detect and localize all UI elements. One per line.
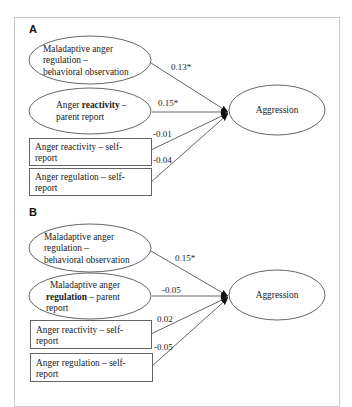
outcome-label: Aggression: [256, 290, 299, 300]
predictor-node: Maladaptive anger regulation – behaviora…: [29, 36, 151, 84]
node-label-line: report: [35, 153, 58, 163]
predictor-node: Maladaptive anger regulation – parent re…: [29, 273, 151, 319]
node-label-line: Anger reactivity – self-: [35, 142, 122, 152]
node-label-line: report: [46, 303, 69, 313]
node-label-line: behavioral observation: [44, 255, 130, 265]
path-coefficient: -0.01: [153, 129, 172, 139]
node-label-line: Anger reactivity – self-: [36, 325, 123, 335]
path-coefficient: 0.15*: [158, 98, 179, 108]
panel-a: A 0.13* 0.15* -0.01 -0.04 Maladaptive an…: [29, 23, 325, 196]
node-label-line: Maladaptive anger: [43, 44, 114, 54]
predictor-node: Maladaptive anger regulation – behaviora…: [29, 224, 151, 272]
predictor-node: Anger reactivity – parent report: [29, 88, 151, 134]
node-label-line: regulation –: [44, 243, 89, 253]
emphasis-word: reactivity: [82, 100, 120, 110]
node-label-line: report: [35, 183, 58, 193]
path-arrow: [152, 298, 228, 366]
path-coefficient: 0.02: [157, 314, 173, 324]
path-coefficient: -0.05: [154, 342, 173, 352]
predictor-node: Anger regulation – self- report: [31, 354, 153, 382]
node-label-line: Maladaptive anger: [44, 232, 115, 242]
node-label-line: report: [36, 336, 59, 346]
node-label-line: regulation –: [43, 55, 88, 65]
node-label-line: Maladaptive anger: [50, 280, 121, 290]
outcome-label: Aggression: [256, 105, 299, 115]
outcome-node: Aggression: [229, 85, 325, 135]
emphasis-word: regulation: [46, 292, 88, 302]
predictor-node: Anger regulation – self- report: [30, 169, 152, 196]
node-label-line: Anger regulation – self-: [35, 172, 125, 182]
node-label-line: Anger reactivity –: [56, 100, 127, 110]
outcome-node: Aggression: [229, 270, 325, 320]
path-coefficient: -0.04: [153, 155, 172, 165]
node-label-line: parent report: [56, 112, 105, 122]
panel-label: B: [29, 206, 37, 218]
predictor-node: Anger reactivity – self- report: [30, 139, 152, 166]
path-coefficient: -0.05: [162, 285, 181, 295]
panel-b: B 0.15* -0.05 0.02 -0.05 Maladaptive ang…: [29, 206, 325, 382]
panel-label: A: [29, 23, 37, 35]
path-arrow: [151, 114, 228, 182]
node-label-line: Anger regulation – self-: [36, 358, 126, 368]
node-label-line: behavioral observation: [43, 67, 129, 77]
node-label-line: regulation – parent: [46, 292, 120, 302]
node-label-line: report: [36, 369, 59, 379]
path-coefficient: 0.15*: [175, 253, 196, 263]
path-coefficient: 0.13*: [171, 62, 192, 72]
predictor-node: Anger reactivity – self- report: [31, 321, 152, 349]
